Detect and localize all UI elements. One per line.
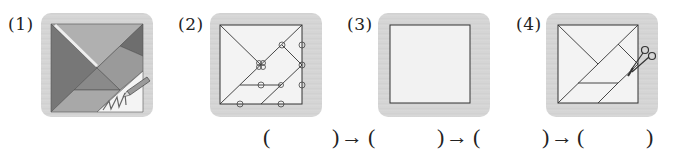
panel-step-3-empty-square <box>378 13 490 117</box>
answer-blank-2[interactable] <box>377 124 437 150</box>
tangram-marked-illustration <box>210 13 322 117</box>
empty-square-illustration <box>378 13 490 117</box>
arrow-2: → <box>446 124 468 150</box>
tangram-cutting-illustration <box>546 13 658 117</box>
step-label-3: (3) <box>347 14 373 34</box>
answer-close-paren-2: ) <box>437 124 444 150</box>
step-label-4: (4) <box>516 14 542 34</box>
answer-close-paren-1: ) <box>332 124 339 150</box>
panel-step-1-colored-tangram <box>41 13 153 117</box>
panel-step-4-cutting <box>546 13 658 117</box>
answer-blank-3[interactable] <box>482 124 542 150</box>
answer-close-paren-4: ) <box>646 124 653 150</box>
answer-close-paren-3: ) <box>542 124 549 150</box>
answer-open-paren-4: ( <box>577 124 584 150</box>
answer-open-paren-1: ( <box>263 124 270 150</box>
arrow-3: → <box>551 124 573 150</box>
answer-blank-1[interactable] <box>272 124 332 150</box>
answer-blank-4[interactable] <box>586 124 646 150</box>
tangram-colored-illustration <box>41 13 153 117</box>
step-label-1: (1) <box>8 14 34 34</box>
step-label-2: (2) <box>178 14 204 34</box>
answer-open-paren-2: ( <box>368 124 375 150</box>
panel-step-2-marked-outline <box>210 13 322 117</box>
answer-sequence-row: ( ) → ( ) → ( ) → ( ) <box>0 124 674 154</box>
arrow-1: → <box>341 124 363 150</box>
answer-open-paren-3: ( <box>473 124 480 150</box>
